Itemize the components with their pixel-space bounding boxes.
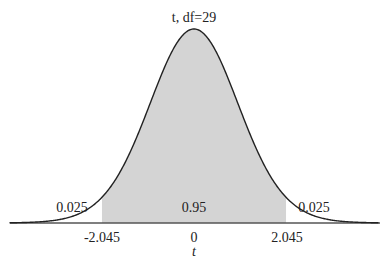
left-tail-label: 0.025 [56, 200, 88, 215]
x-tick-label-right: 2.045 [271, 230, 303, 245]
right-tail-label: 0.025 [298, 200, 330, 215]
t-distribution-chart: t, df=29 0.025 0.95 0.025 -2.045 0 2.045… [0, 0, 388, 259]
shaded-center-region [102, 29, 286, 223]
x-tick-label-center: 0 [191, 230, 198, 245]
x-axis-label: t [192, 244, 197, 259]
center-area-label: 0.95 [182, 200, 207, 215]
x-tick-label-left: -2.045 [84, 230, 120, 245]
chart-title: t, df=29 [172, 10, 216, 25]
